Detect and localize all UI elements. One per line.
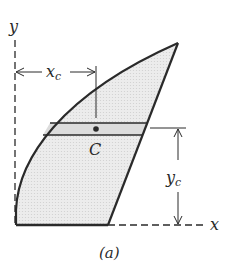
centroid-diagram: y x xc yc C (a) (0, 0, 237, 278)
centroid-label: C (89, 140, 101, 159)
figure-caption: (a) (99, 244, 120, 262)
x-axis-label: x (210, 215, 219, 234)
y-axis-label: y (8, 17, 19, 36)
yc-label: yc (165, 168, 181, 189)
xc-label: xc (46, 62, 61, 83)
centroid-point (93, 126, 99, 132)
